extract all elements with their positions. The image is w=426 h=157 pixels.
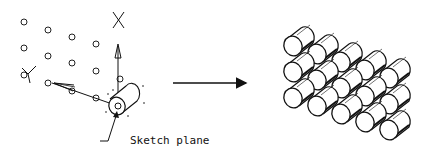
sketch-plane-leader xyxy=(100,111,119,141)
cylinder-array xyxy=(281,25,410,143)
diagram-canvas xyxy=(0,0,426,157)
x-axis-label xyxy=(113,12,124,28)
sketch-cylinder xyxy=(105,83,145,117)
point-grid xyxy=(21,19,123,101)
y-axis-label xyxy=(22,66,36,83)
sketch-plane-label: Sketch plane xyxy=(130,134,209,147)
